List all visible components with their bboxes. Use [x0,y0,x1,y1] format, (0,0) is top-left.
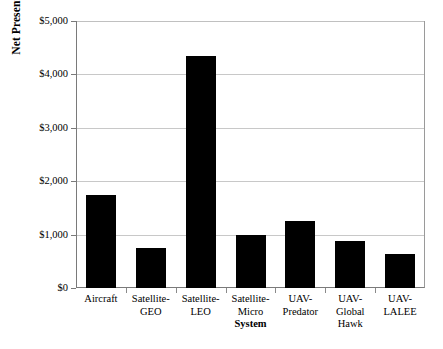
bar [236,235,266,288]
x-axis-tick-label: Aircraft [76,293,126,306]
bar [136,248,166,288]
bar [86,195,116,288]
x-axis-tick-label: Satellite-LEO [176,293,226,318]
x-axis-tick-label: UAV-LALEE [375,293,425,318]
bar-chart-figure: Net Present Cost ($M) $0$1,000$2,000$3,0… [0,0,443,349]
x-axis-tick-label: UAV-Predator [275,293,325,318]
y-axis-tick-label: $4,000 [22,69,68,79]
bar [385,254,415,288]
bar-series [76,21,425,288]
y-axis-tick-labels: $0$1,000$2,000$3,000$4,000$5,000 [18,0,68,349]
y-axis-tick-label: $2,000 [22,176,68,186]
y-axis-tick-label: $5,000 [22,16,68,26]
x-axis-tick-label: Satellite-Micro [226,293,276,318]
x-axis-tick-label: Satellite-GEO [126,293,176,318]
bar [335,241,365,288]
bar [186,56,216,288]
y-axis-tick-label: $3,000 [22,123,68,133]
x-axis-title: System [76,318,425,329]
y-axis-tick-label: $0 [22,283,68,293]
bar [285,221,315,288]
y-axis-tick-label: $1,000 [22,230,68,240]
